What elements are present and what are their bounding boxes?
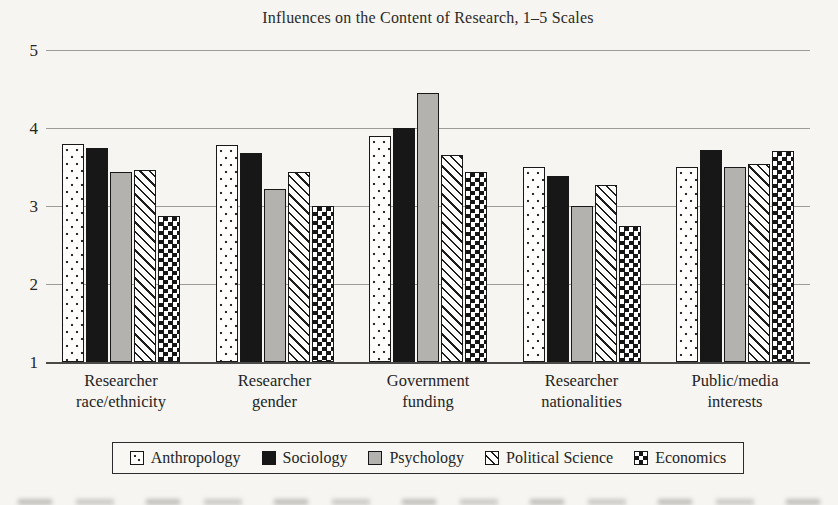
x-label-4: Researchernationalities bbox=[497, 370, 667, 413]
scanned-chart-page: Influences on the Content of Research, 1… bbox=[0, 0, 838, 505]
cutoff-caption-artifact bbox=[18, 499, 820, 505]
legend-label: Political Science bbox=[506, 449, 613, 467]
legend-item-political-science: Political Science bbox=[485, 449, 613, 467]
bar-political-science bbox=[595, 185, 617, 362]
bar-political-science bbox=[288, 172, 310, 362]
bar-anthropology bbox=[523, 167, 545, 362]
legend-row: AnthropologySociologyPsychologyPolitical… bbox=[46, 442, 810, 474]
legend-swatch-dots-icon bbox=[130, 451, 144, 465]
x-label-5: Public/mediainterests bbox=[650, 370, 820, 413]
plot-area: 12345 bbox=[46, 50, 810, 362]
bar-economics bbox=[465, 172, 487, 362]
legend-swatch-solid-black-icon bbox=[262, 451, 276, 465]
x-label-2: Researchergender bbox=[190, 370, 360, 413]
bar-economics bbox=[772, 151, 794, 362]
y-tick-label-4: 4 bbox=[12, 120, 38, 137]
bar-economics bbox=[312, 206, 334, 362]
gridline-y1 bbox=[46, 362, 810, 364]
bar-psychology bbox=[110, 172, 132, 362]
bar-anthropology bbox=[62, 144, 84, 362]
x-axis-labels: Researcherrace/ethnicityResearchergender… bbox=[46, 370, 810, 420]
legend-label: Sociology bbox=[283, 449, 348, 467]
bar-anthropology bbox=[676, 167, 698, 362]
bar-economics bbox=[619, 226, 641, 363]
legend-item-sociology: Sociology bbox=[262, 449, 348, 467]
legend-item-economics: Economics bbox=[634, 449, 726, 467]
bar-groups bbox=[46, 50, 810, 362]
bar-anthropology bbox=[216, 145, 238, 362]
bar-sociology bbox=[240, 153, 262, 362]
legend-swatch-solid-gray-icon bbox=[368, 451, 382, 465]
chart-title: Influences on the Content of Research, 1… bbox=[46, 9, 810, 27]
legend-swatch-checkerboard-icon bbox=[634, 451, 648, 465]
bar-psychology bbox=[571, 206, 593, 362]
bar-sociology bbox=[393, 128, 415, 362]
legend-item-psychology: Psychology bbox=[368, 449, 464, 467]
legend-swatch-diagonal-stripes-icon bbox=[485, 451, 499, 465]
bar-economics bbox=[158, 216, 180, 362]
y-tick-label-2: 2 bbox=[12, 276, 38, 293]
bar-group-3 bbox=[369, 50, 487, 362]
bar-sociology bbox=[86, 148, 108, 362]
legend-label: Psychology bbox=[389, 449, 464, 467]
legend-box: AnthropologySociologyPsychologyPolitical… bbox=[112, 442, 745, 474]
bar-sociology bbox=[700, 150, 722, 362]
bar-group-4 bbox=[523, 50, 641, 362]
legend-label: Anthropology bbox=[151, 449, 241, 467]
bar-psychology bbox=[264, 189, 286, 362]
x-label-1: Researcherrace/ethnicity bbox=[36, 370, 206, 413]
bar-group-5 bbox=[676, 50, 794, 362]
bar-political-science bbox=[441, 155, 463, 362]
y-tick-label-5: 5 bbox=[12, 42, 38, 59]
legend-item-anthropology: Anthropology bbox=[130, 449, 241, 467]
y-tick-label-3: 3 bbox=[12, 198, 38, 215]
bar-anthropology bbox=[369, 136, 391, 362]
legend-label: Economics bbox=[655, 449, 726, 467]
y-tick-label-1: 1 bbox=[12, 354, 38, 371]
x-label-3: Governmentfunding bbox=[343, 370, 513, 413]
bar-group-1 bbox=[62, 50, 180, 362]
bar-psychology bbox=[724, 167, 746, 362]
bar-group-2 bbox=[216, 50, 334, 362]
bar-psychology bbox=[417, 93, 439, 362]
bar-political-science bbox=[748, 164, 770, 362]
bar-political-science bbox=[134, 170, 156, 362]
bar-sociology bbox=[547, 176, 569, 362]
